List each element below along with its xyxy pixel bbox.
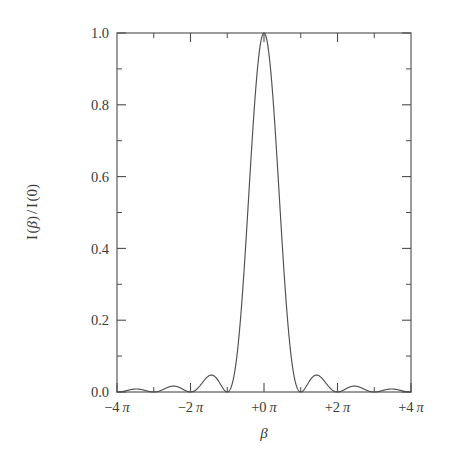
y-axis-title: I(β)/I(0)	[24, 184, 41, 240]
x-tick-unit-3: π	[343, 399, 351, 415]
x-tick-unit-0: π	[123, 399, 131, 415]
diffraction-intensity-figure: 0.0 0.2 0.4 0.6 0.8 1.0 −4π −2π +0π +2π …	[0, 0, 449, 459]
x-tick-unit-1: π	[196, 399, 204, 415]
x-tick-label-plus-4pi: +4π	[398, 399, 424, 415]
x-tick-unit-2: π	[270, 399, 278, 415]
y-tick-label-1: 0.2	[91, 312, 109, 328]
x-tick-sign-1: −2	[178, 399, 193, 415]
y-tick-label-4: 0.8	[91, 97, 109, 113]
y-tick-label-5: 1.0	[91, 25, 109, 41]
x-tick-unit-4: π	[417, 399, 425, 415]
plot-canvas: 0.0 0.2 0.4 0.6 0.8 1.0 −4π −2π +0π +2π …	[0, 0, 449, 459]
x-tick-label-minus-4pi: −4π	[104, 399, 130, 415]
x-tick-sign-3: +2	[325, 399, 340, 415]
x-tick-sign-4: +4	[398, 399, 414, 415]
x-axis-title: β	[259, 425, 268, 441]
x-tick-sign-2: +0	[251, 399, 266, 415]
y-tick-label-0: 0.0	[91, 384, 109, 400]
x-tick-label-0pi: +0π	[251, 399, 277, 415]
y-title-i2: I	[24, 203, 40, 208]
y-tick-label-3: 0.6	[91, 169, 109, 185]
plot-area-background	[117, 33, 411, 392]
x-tick-label-plus-2pi: +2π	[325, 399, 351, 415]
y-title-close2: )	[24, 184, 41, 189]
x-tick-sign-0: −4	[104, 399, 120, 415]
y-tick-label-2: 0.4	[91, 241, 110, 257]
y-title-zero: 0	[24, 189, 40, 197]
y-title-close1: )	[24, 216, 41, 221]
y-title-i1: I	[24, 235, 40, 240]
x-tick-label-minus-2pi: −2π	[178, 399, 204, 415]
